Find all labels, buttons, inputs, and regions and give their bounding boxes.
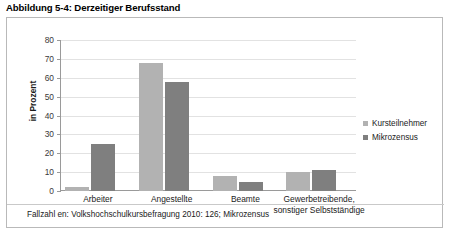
plot-area: 01020304050607080	[61, 40, 356, 191]
bar-mikrozensus-3[interactable]	[312, 170, 336, 191]
y-axis-tick-label: 10	[45, 167, 54, 177]
bar-mikrozensus-0[interactable]	[91, 144, 115, 191]
chart-region: in Prozent 01020304050607080 ArbeiterAng…	[7, 18, 444, 204]
y-axis-tick-label: 80	[45, 35, 54, 45]
legend-label: Kursteilnehmer	[372, 119, 427, 128]
x-axis-category-labels: ArbeiterAngestellteBeamteGewerbetreibend…	[61, 194, 356, 224]
figure-title: Abbildung 5-4: Derzeitiger Berufsstand	[6, 2, 180, 13]
y-axis-tick-label: 30	[45, 129, 54, 139]
category-label-line: Arbeiter	[83, 194, 112, 204]
bar-kursteilnehmer-2[interactable]	[213, 176, 237, 191]
y-axis-title: in Prozent	[28, 61, 38, 141]
bar-group	[282, 40, 356, 191]
legend-swatch-icon	[363, 135, 368, 140]
y-axis-tick-label: 70	[45, 54, 54, 64]
y-axis-tick-label: 50	[45, 92, 54, 102]
legend-item[interactable]: Kursteilnehmer	[363, 117, 443, 129]
figure-container: Abbildung 5-4: Derzeitiger Berufsstand i…	[0, 0, 451, 236]
bar-kursteilnehmer-0[interactable]	[65, 187, 89, 191]
category-label-line: Beamte	[231, 194, 260, 204]
y-axis-tick-label: 60	[45, 73, 54, 83]
category-label-line: Gewerbetreibende,	[284, 194, 355, 204]
bar-mikrozensus-2[interactable]	[239, 182, 263, 191]
footer-divider	[7, 204, 444, 205]
legend-swatch-icon	[363, 121, 368, 126]
figure-box: in Prozent 01020304050607080 ArbeiterAng…	[6, 17, 443, 228]
bar-mikrozensus-1[interactable]	[165, 82, 189, 191]
category-label-line: sonstiger Selbstständige	[262, 205, 377, 216]
y-axis-tick-label: 40	[45, 111, 54, 121]
chart-legend: KursteilnehmerMikrozensus	[363, 117, 443, 145]
bar-group	[209, 40, 283, 191]
y-axis-tick-label: 20	[45, 148, 54, 158]
bars-layer	[61, 40, 356, 191]
bar-group	[135, 40, 209, 191]
bar-kursteilnehmer-3[interactable]	[286, 172, 310, 191]
legend-label: Mikrozensus	[372, 133, 418, 142]
bar-kursteilnehmer-1[interactable]	[139, 63, 163, 191]
legend-item[interactable]: Mikrozensus	[363, 131, 443, 143]
category-label-line: Angestellte	[151, 194, 192, 204]
bar-group	[61, 40, 135, 191]
y-axis-tick-mark	[57, 191, 61, 192]
footer-note: Fallzahl en: Volkshochschulkursbefragung…	[27, 210, 269, 219]
